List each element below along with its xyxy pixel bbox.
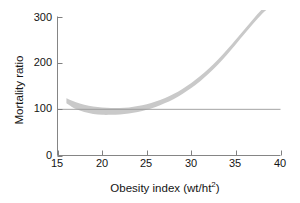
x-tick-label-20: 20 [88,158,116,169]
y-tick-label-300: 300 [8,12,52,23]
x-axis-ticks [59,151,282,156]
chart-figure: 300 200 100 0 15 20 25 30 35 40 Mortalit… [0,0,300,203]
x-tick-label-35: 35 [221,158,249,169]
x-tick-label-25: 25 [132,158,160,169]
x-axis-title-close: ) [216,182,220,194]
y-axis-title: Mortality ratio [13,30,25,150]
x-tick-label-40: 40 [266,158,294,169]
x-tick-label-30: 30 [177,158,205,169]
x-axis-title-main: Obesity index (wt/ht [110,182,211,194]
confidence-band [66,0,280,115]
x-tick-label-15: 15 [43,158,71,169]
y-axis-ticks [58,18,63,157]
x-axis-title: Obesity index (wt/ht2) [40,182,290,194]
